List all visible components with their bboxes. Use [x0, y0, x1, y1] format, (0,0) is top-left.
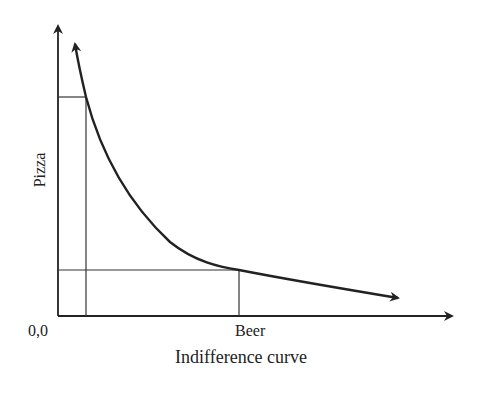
indifference-curve: [86, 97, 398, 298]
y-axis-label: Pizza: [32, 153, 48, 188]
indifference-curve-diagram: 0,0 Beer Pizza Indifference curve: [0, 0, 482, 397]
x-axis-label: Beer: [235, 323, 265, 339]
origin-label: 0,0: [28, 323, 48, 339]
indifference-curve-upper-tail: [75, 44, 86, 97]
diagram-caption: Indifference curve: [175, 348, 307, 366]
